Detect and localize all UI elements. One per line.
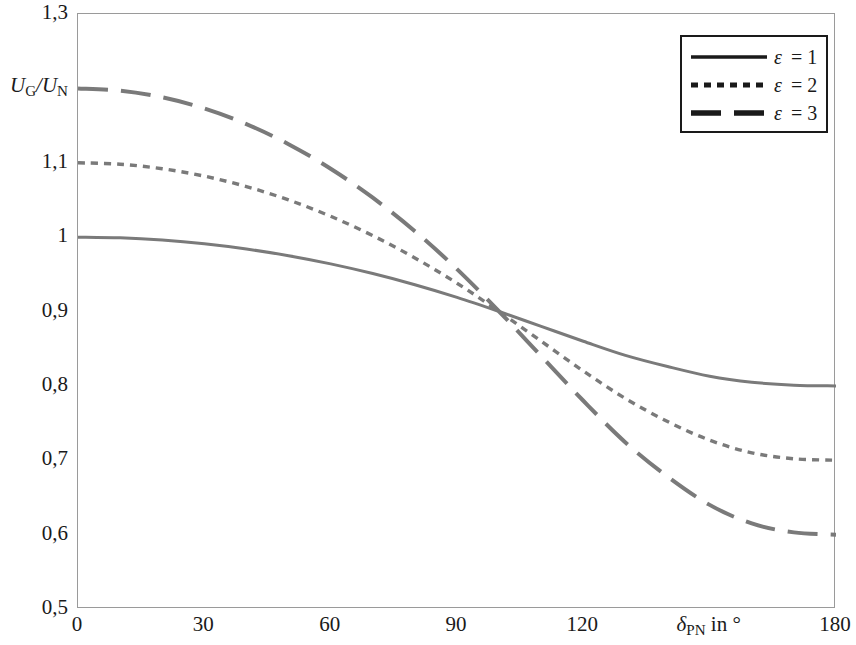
y-axis-title: UG/UN <box>0 75 68 102</box>
chart-figure: 0,50,60,70,80,911,11,3UG/UN 030609012018… <box>0 0 856 645</box>
curve-series-3 <box>78 88 836 534</box>
y-axis-tick-label: 1,1 <box>0 151 68 172</box>
y-axis-tick-label: 0,8 <box>0 374 68 395</box>
x-axis-tick-label: 180 <box>790 614 856 635</box>
y-axis-tick-label: 0,9 <box>0 300 68 321</box>
y-axis-tick-label: 1,3 <box>0 2 68 23</box>
x-axis-tick-label: 120 <box>537 614 627 635</box>
x-axis-tick-label: 90 <box>411 614 501 635</box>
legend-line-sample <box>690 50 768 64</box>
legend-item-label: ε = 1 <box>774 47 817 67</box>
curve-series-2 <box>78 163 836 461</box>
legend-item-3: ε = 3 <box>690 100 822 126</box>
legend-line-sample <box>690 78 768 92</box>
legend-item-1: ε = 1 <box>690 44 822 70</box>
x-axis-tick-label: 0 <box>32 614 122 635</box>
x-axis-tick-label: 30 <box>158 614 248 635</box>
x-axis-title: δPN in ° <box>629 614 789 641</box>
curve-series-1 <box>78 237 836 386</box>
y-axis-tick-label: 0,7 <box>0 448 68 469</box>
legend-box: ε = 1 ε = 2 ε = 3 <box>680 35 828 133</box>
x-axis-tick-label: 60 <box>285 614 375 635</box>
legend-line-sample <box>690 106 768 120</box>
legend-item-label: ε = 2 <box>774 75 817 95</box>
legend-item-label: ε = 3 <box>774 103 817 123</box>
y-axis-tick-label: 0,6 <box>0 523 68 544</box>
legend-item-2: ε = 2 <box>690 72 822 98</box>
y-axis-tick-label: 1 <box>0 225 68 246</box>
